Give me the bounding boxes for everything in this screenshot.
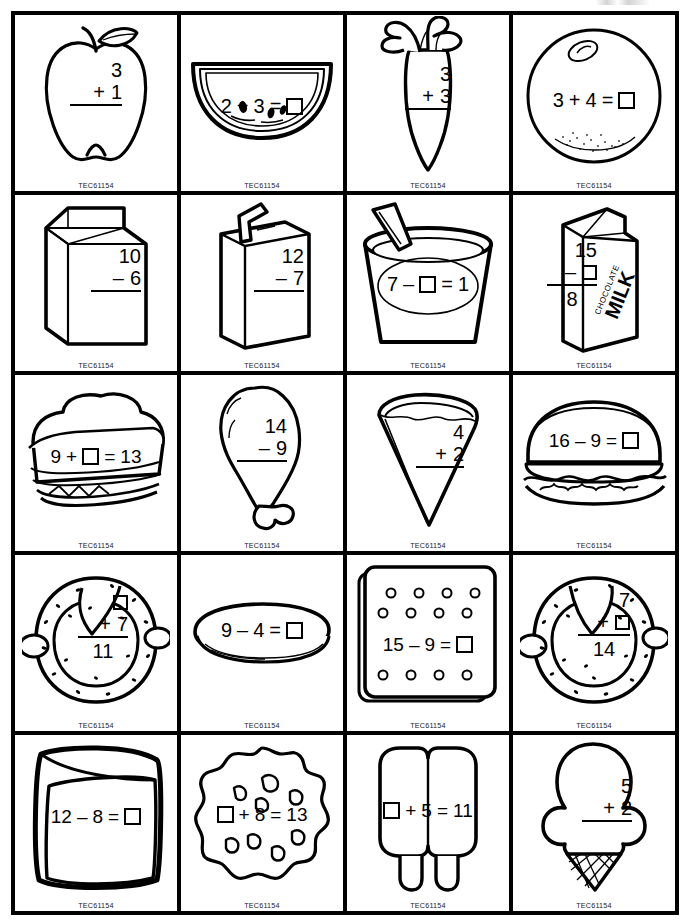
publisher-code: TEC61154 <box>347 901 509 910</box>
cookie-icon <box>181 735 343 896</box>
publisher-code: TEC61154 <box>513 181 675 190</box>
fact-card[interactable]: + 8 = 13 TEC61154 <box>181 735 343 911</box>
fact-card[interactable]: 7 – = 1 TEC61154 <box>347 195 509 371</box>
drumstick-icon <box>181 375 343 536</box>
fact-card-grid: 3 + 1 TEC61154 <box>11 11 679 915</box>
fact-card[interactable]: 9 + = 13 TEC61154 <box>15 375 177 551</box>
publisher-code: TEC61154 <box>181 181 343 190</box>
orange-icon <box>513 15 675 176</box>
fact-card[interactable]: 3 + 3 TEC61154 <box>347 15 509 191</box>
publisher-code: TEC61154 <box>513 361 675 370</box>
fact-card[interactable]: 9 – 4 = TEC61154 <box>181 555 343 731</box>
publisher-code: TEC61154 <box>15 721 177 730</box>
juice-box-icon <box>181 195 343 356</box>
chocolate-milk-icon: CHOCOLATE MILK <box>513 195 675 356</box>
fact-card[interactable]: + 5 = 11 TEC61154 <box>347 735 509 911</box>
fact-card[interactable]: 5 + 2 TEC61154 <box>513 735 675 911</box>
publisher-code: TEC61154 <box>347 721 509 730</box>
fact-card[interactable]: 12 – 8 = TEC61154 <box>15 735 177 911</box>
apple-icon <box>15 15 177 176</box>
fact-card[interactable]: 14 – 9 TEC61154 <box>181 375 343 551</box>
hamburger-icon <box>513 375 675 536</box>
publisher-code: TEC61154 <box>513 721 675 730</box>
pizza-slice-icon <box>347 375 509 536</box>
fact-card[interactable]: 3 + 1 TEC61154 <box>15 15 177 191</box>
watermelon-icon <box>181 15 343 176</box>
fact-card[interactable]: 15 – 9 = TEC61154 <box>347 555 509 731</box>
publisher-code: TEC61154 <box>513 541 675 550</box>
popsicle-icon <box>347 735 509 896</box>
cracker-icon <box>347 555 509 716</box>
publisher-code: TEC61154 <box>347 541 509 550</box>
fact-card[interactable]: 4 + 2 TEC61154 <box>347 375 509 551</box>
milk-carton-icon <box>15 195 177 356</box>
pancake-icon <box>181 555 343 716</box>
publisher-code: TEC61154 <box>513 901 675 910</box>
fact-card[interactable]: 10 – 6 TEC61154 <box>15 195 177 371</box>
publisher-code: TEC61154 <box>347 361 509 370</box>
pretzel-icon <box>513 555 675 716</box>
fact-card[interactable]: CHOCOLATE MILK 15 – 8 <box>513 195 675 371</box>
publisher-code: TEC61154 <box>181 361 343 370</box>
publisher-code: TEC61154 <box>15 901 177 910</box>
publisher-code: TEC61154 <box>181 541 343 550</box>
fact-card[interactable]: 2 + 3 = TEC61154 <box>181 15 343 191</box>
publisher-code: TEC61154 <box>15 361 177 370</box>
page-header-artifact <box>596 0 650 5</box>
fact-card[interactable]: 12 – 7 TEC61154 <box>181 195 343 371</box>
yogurt-cup-icon <box>347 195 509 356</box>
fact-card[interactable]: 3 + 4 = TEC61154 <box>513 15 675 191</box>
ice-cream-cone-icon <box>513 735 675 896</box>
publisher-code: TEC61154 <box>181 721 343 730</box>
worksheet-page: 3 + 1 TEC61154 <box>0 0 690 923</box>
publisher-code: TEC61154 <box>347 181 509 190</box>
publisher-code: TEC61154 <box>15 541 177 550</box>
cheese-slice-icon <box>15 735 177 896</box>
fact-card[interactable]: 16 – 9 = TEC61154 <box>513 375 675 551</box>
carrot-icon <box>347 15 509 176</box>
sandwich-icon <box>15 375 177 536</box>
publisher-code: TEC61154 <box>181 901 343 910</box>
publisher-code: TEC61154 <box>15 181 177 190</box>
pretzel-icon <box>15 555 177 716</box>
fact-card[interactable]: + 7 11 TEC61154 <box>15 555 177 731</box>
fact-card[interactable]: 7 + 14 TEC61154 <box>513 555 675 731</box>
